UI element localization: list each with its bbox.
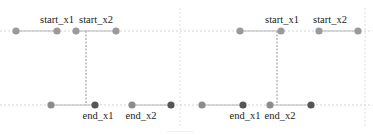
start-label: start_x1 bbox=[265, 14, 299, 25]
end-point-dot bbox=[239, 101, 246, 108]
end-point-dot bbox=[307, 101, 314, 108]
end-point-dot bbox=[266, 101, 273, 108]
start-point-dot bbox=[315, 27, 322, 34]
start-point-dot bbox=[236, 27, 243, 34]
end-label: end_x1 bbox=[230, 110, 261, 121]
end-point-dot bbox=[128, 101, 135, 108]
end-label: end_x2 bbox=[126, 110, 157, 121]
end-point-dot bbox=[47, 101, 54, 108]
start-point-dot bbox=[53, 27, 60, 34]
start-point-dot bbox=[354, 27, 361, 34]
end-point-dot bbox=[91, 101, 98, 108]
end-label: end_x2 bbox=[265, 110, 296, 121]
figure-caption: ............ bbox=[167, 124, 194, 134]
start-point-dot bbox=[72, 27, 79, 34]
end-point-dot bbox=[167, 101, 174, 108]
end-point-dot bbox=[198, 101, 205, 108]
start-label: start_x1 bbox=[40, 14, 74, 25]
start-label: start_x2 bbox=[79, 14, 113, 25]
end-label: end_x1 bbox=[83, 110, 114, 121]
start-label: start_x2 bbox=[313, 14, 347, 25]
interval-diagram: start_x1start_x2end_x1end_x2start_x1star… bbox=[0, 0, 373, 135]
start-point-dot bbox=[12, 27, 19, 34]
start-point-dot bbox=[277, 27, 284, 34]
start-point-dot bbox=[112, 27, 119, 34]
